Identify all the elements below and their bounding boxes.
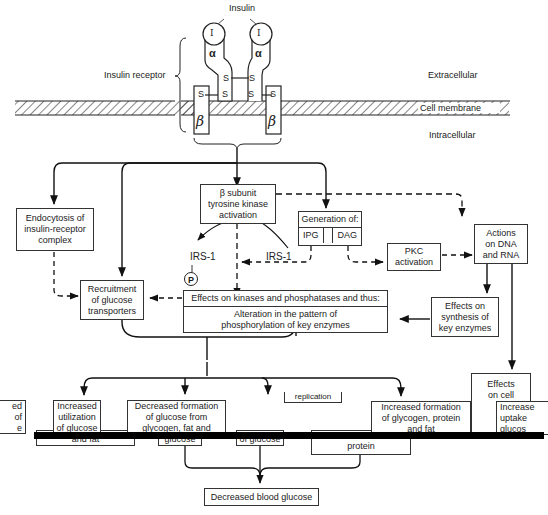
insulin-symbol-right: I xyxy=(257,28,261,38)
beta-subunit-activation-box: β subunit tyrosine kinase activation xyxy=(200,184,276,224)
partial-left-box: ed of e xyxy=(0,400,26,434)
dag-cell: DAG xyxy=(332,228,361,243)
insulin-molecule-right xyxy=(250,23,272,45)
beta-subunit-left: β xyxy=(196,113,204,129)
disulfide-label: S xyxy=(222,89,228,99)
irs1-left-label: IRS-1 xyxy=(190,251,216,262)
receptor-bottom-brace xyxy=(194,138,281,150)
disulfide-label: S xyxy=(198,89,204,99)
decreased-blood-glucose-box: Decreased blood glucose xyxy=(204,488,319,506)
insulin-symbol-left: I xyxy=(210,28,214,38)
replication-partial-box: replication xyxy=(284,392,342,403)
generation-box: Generation of: IPG DAG xyxy=(298,211,362,246)
alpha-subunit-right: α xyxy=(255,47,262,59)
effects-synthesis-box: Effects on synthesis of key enzymes xyxy=(431,297,499,337)
disulfide-label: S xyxy=(248,89,254,99)
receptor-brace xyxy=(175,38,186,132)
insulin-molecule-left xyxy=(203,23,225,45)
increased-uptake-box: Increase uptake glucos xyxy=(496,401,548,435)
increased-utilization-box: Increased utilization of glucose xyxy=(53,400,101,434)
beta-subunit-right: β xyxy=(268,113,276,129)
pkc-activation-box: PKC activation xyxy=(387,243,441,271)
effects-kinases-title: Effects on kinases and phosphatases and … xyxy=(184,291,387,307)
phosphate-icon: P xyxy=(184,272,198,286)
effects-kinases-box: Effects on kinases and phosphatases and … xyxy=(183,290,388,333)
disulfide-label: S xyxy=(270,89,276,99)
irs1-right-label: IRS-1 xyxy=(266,251,292,262)
intracellular-label: Intracellular xyxy=(429,130,476,140)
decreased-formation-box: Decreased formation of glucose from glyc… xyxy=(127,400,226,434)
disulfide-label: S xyxy=(223,73,229,83)
increased-formation-box: Increased formation of glycogen, protein… xyxy=(371,401,471,435)
recruitment-box: Recruitment of glucose transporters xyxy=(80,280,144,320)
disulfide-label: S xyxy=(249,73,255,83)
insulin-label: Insulin xyxy=(229,3,255,13)
insulin-receptor-label: Insulin receptor xyxy=(104,70,166,80)
black-occlusion-bar xyxy=(34,432,544,439)
extracellular-label: Extracellular xyxy=(428,70,478,80)
actions-dna-rna-box: Actions on DNA and RNA xyxy=(474,224,528,264)
alpha-subunit-left: α xyxy=(209,47,216,59)
cell-membrane-label: Cell membrane xyxy=(420,103,481,113)
endocytosis-box: Endocytosis of insulin-receptor complex xyxy=(16,208,94,251)
generation-title: Generation of: xyxy=(299,212,361,228)
ipg-cell: IPG xyxy=(299,228,324,243)
